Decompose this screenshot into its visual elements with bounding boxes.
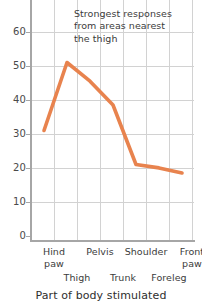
- x-axis-title: Part of body stimulated: [0, 289, 202, 302]
- annotation-line-2: from areas nearest: [74, 20, 196, 32]
- x-label-trunk: Trunk: [100, 272, 146, 284]
- x-label-line: paw: [31, 258, 77, 270]
- x-label-thigh: Thigh: [54, 272, 100, 284]
- line-chart: 60 50 40 30 20 10 0 Strongest responses …: [0, 0, 202, 307]
- chart-annotation: Strongest responses from areas nearest t…: [74, 8, 196, 45]
- x-label-front-paw: Front paw: [169, 246, 202, 269]
- x-axis-labels: Hind paw Pelvis Shoulder Front paw Thigh…: [31, 243, 195, 289]
- x-label-line: Thigh: [54, 272, 100, 284]
- x-label-foreleg: Foreleg: [146, 272, 192, 284]
- x-label-line: Front: [169, 246, 202, 258]
- x-label-pelvis: Pelvis: [77, 246, 123, 258]
- x-label-line: paw: [169, 258, 202, 270]
- x-label-hind-paw: Hind paw: [31, 246, 77, 269]
- data-series-line: [44, 63, 182, 174]
- x-label-line: Trunk: [100, 272, 146, 284]
- x-label-line: Foreleg: [146, 272, 192, 284]
- x-label-line: Shoulder: [123, 246, 169, 258]
- annotation-line-3: the thigh: [74, 33, 196, 45]
- x-label-line: Pelvis: [77, 246, 123, 258]
- annotation-line-1: Strongest responses: [74, 8, 196, 20]
- x-label-line: Hind: [31, 246, 77, 258]
- x-label-shoulder: Shoulder: [123, 246, 169, 258]
